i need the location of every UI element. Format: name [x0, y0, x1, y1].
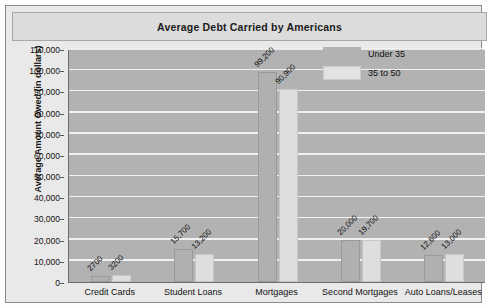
y-tick-mark	[60, 219, 64, 220]
y-tick-label: 80,000	[34, 109, 60, 119]
y-tick-label: 10,000	[34, 257, 60, 267]
x-axis-labels: Credit CardsStudent LoansMortgagesSecond…	[68, 287, 485, 303]
y-tick-label: 110,000	[30, 45, 60, 55]
y-tick-mark	[60, 241, 64, 242]
x-tick-label: Auto Loans/Leases	[405, 287, 482, 297]
gridline	[69, 217, 485, 219]
y-tick-mark	[60, 177, 64, 178]
bar-35-to-50	[445, 254, 464, 282]
data-label: 2700	[85, 254, 104, 273]
plot-area: 2700320015,70013,20099,20090,90020,00019…	[68, 50, 485, 283]
bar-under-35	[174, 249, 193, 282]
bar-35-to-50	[279, 89, 298, 282]
y-axis-ticks: 010,00020,00030,00040,00050,00060,00070,…	[6, 50, 64, 283]
legend-item: Under 35	[323, 45, 423, 62]
y-tick-mark	[60, 283, 64, 284]
data-label: 90,900	[273, 63, 297, 87]
bar-under-35	[258, 72, 277, 282]
gridline	[69, 196, 485, 198]
y-tick-mark	[60, 92, 64, 93]
chart-title: Average Debt Carried by Americans	[157, 21, 342, 33]
chart-title-band: Average Debt Carried by Americans	[12, 12, 487, 41]
y-tick-label: 100,000	[29, 66, 60, 76]
y-tick-label: 70,000	[34, 130, 60, 140]
y-tick-label: 40,000	[34, 193, 60, 203]
legend-label: Under 35	[368, 49, 405, 59]
bar-under-35	[91, 276, 110, 282]
data-label: 3200	[106, 253, 125, 272]
legend-swatch	[323, 47, 361, 61]
y-tick-mark	[60, 156, 64, 157]
gridline	[69, 90, 485, 92]
y-tick-label: 20,000	[34, 236, 60, 246]
y-tick-mark	[60, 50, 64, 51]
bar-35-to-50	[112, 275, 131, 282]
bar-under-35	[341, 240, 360, 282]
x-tick-label: Student Loans	[164, 287, 222, 297]
gridline	[69, 111, 485, 113]
y-tick-label: 30,000	[34, 214, 60, 224]
gridline	[69, 175, 485, 177]
x-tick-label: Mortgages	[255, 287, 298, 297]
chart-legend: Under 3535 to 50	[323, 45, 423, 83]
y-tick-mark	[60, 71, 64, 72]
data-label: 15,700	[169, 222, 193, 246]
data-label: 12,600	[419, 229, 443, 253]
y-tick-label: 60,000	[34, 151, 60, 161]
x-tick-label: Second Mortgages	[322, 287, 398, 297]
gridline	[69, 238, 485, 240]
bar-35-to-50	[195, 254, 214, 282]
y-tick-mark	[60, 262, 64, 263]
gridline	[69, 259, 485, 261]
y-tick-mark	[60, 114, 64, 115]
chart-frame: Average Debt Carried by Americans Averag…	[5, 5, 482, 303]
y-tick-mark	[60, 135, 64, 136]
bar-35-to-50	[362, 240, 381, 282]
x-tick-label: Credit Cards	[84, 287, 135, 297]
y-tick-label: 90,000	[34, 87, 60, 97]
bar-under-35	[424, 255, 443, 282]
chart-screenshot: Average Debt Carried by Americans Averag…	[0, 0, 487, 308]
y-tick-mark	[60, 198, 64, 199]
legend-label: 35 to 50	[368, 68, 401, 78]
y-tick-label: 50,000	[34, 172, 60, 182]
gridline	[69, 153, 485, 155]
legend-swatch	[323, 66, 361, 80]
legend-item: 35 to 50	[323, 64, 423, 81]
gridline	[69, 132, 485, 134]
